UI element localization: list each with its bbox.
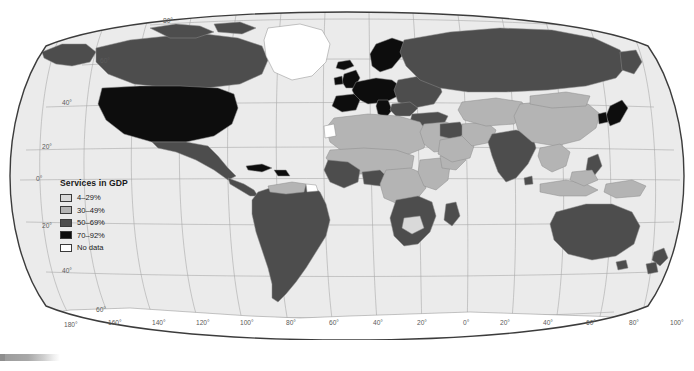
horizontal-scrollbar-thumb[interactable] [2, 354, 60, 361]
lat-label-20n: 20° [42, 143, 52, 150]
lon-label-60w: 60° [329, 319, 339, 326]
legend-swatch-4-29 [60, 194, 72, 202]
lon-label-20e: 20° [500, 319, 510, 326]
map-legend: Services in GDP 4–29% 30–49% 50–69% 70–9… [60, 178, 152, 255]
scrollbar-left-cap[interactable] [0, 354, 5, 361]
lon-label-40e: 40° [543, 319, 553, 326]
legend-item-50-69: 50–69% [60, 217, 152, 228]
page-root: 80° 60° 40° 20° 0° 20° 40° 60° 180° 160°… [0, 0, 694, 371]
horizontal-scrollbar-track[interactable] [0, 354, 694, 362]
region-new-zealand-south [646, 262, 658, 274]
legend-swatch-30-49 [60, 206, 72, 214]
lon-label-120w: 120° [196, 319, 210, 326]
legend-item-4-29: 4–29% [60, 192, 152, 203]
legend-label-70-92: 70–92% [77, 231, 105, 240]
lat-label-60s: 60° [96, 306, 106, 313]
lon-label-80w: 80° [286, 319, 296, 326]
legend-item-30-49: 30–49% [60, 205, 152, 216]
legend-label-4-29: 4–29% [77, 193, 101, 202]
lon-label-80e: 80° [629, 319, 639, 326]
legend-label-50-69: 50–69% [77, 218, 105, 227]
region-korea [598, 112, 608, 124]
lon-label-160w: 160° [108, 319, 122, 326]
lat-label-40n: 40° [62, 99, 72, 106]
region-western-sahara [324, 124, 336, 138]
lon-label-40w: 40° [373, 319, 383, 326]
world-map-svg: 80° 60° 40° 20° 0° 20° 40° 60° 180° 160°… [0, 0, 694, 340]
lon-label-60e: 60° [586, 319, 596, 326]
legend-label-30-49: 30–49% [77, 206, 105, 215]
lat-label-60n: 60° [100, 57, 110, 64]
lat-label-80n: 80° [163, 17, 173, 24]
lat-label-40s: 40° [62, 267, 72, 274]
legend-swatch-70-92 [60, 231, 72, 239]
world-map-figure: 80° 60° 40° 20° 0° 20° 40° 60° 180° 160°… [0, 0, 694, 340]
legend-swatch-no-data [60, 244, 72, 252]
legend-item-no-data: No data [60, 242, 152, 253]
lat-label-20s: 20° [42, 222, 52, 229]
region-guyana [306, 184, 318, 192]
legend-title: Services in GDP [60, 178, 152, 188]
lon-label-20w: 20° [417, 319, 427, 326]
legend-label-no-data: No data [77, 243, 104, 252]
legend-swatch-50-69 [60, 219, 72, 227]
lon-label-180w: 180° [64, 321, 78, 328]
lon-label-100w: 100° [240, 319, 254, 326]
lon-label-0: 0° [463, 319, 470, 326]
region-tasmania [616, 260, 628, 270]
legend-item-70-92: 70–92% [60, 230, 152, 241]
lat-label-0: 0° [36, 175, 43, 182]
lon-label-100e: 100° [670, 319, 684, 326]
lon-label-140w: 140° [152, 319, 166, 326]
